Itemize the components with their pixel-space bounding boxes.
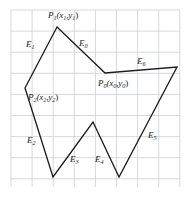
subscript: 3 [75, 158, 78, 165]
edge-label-e6: E6 [137, 57, 145, 66]
subscript: 0 [103, 82, 106, 89]
subscript: 1 [31, 43, 34, 50]
edge-label-e2: E2 [27, 136, 35, 145]
subscript: 4 [100, 158, 103, 165]
subscript: 2 [33, 96, 36, 103]
subscript: 0 [122, 82, 125, 89]
subscript: 2 [52, 96, 55, 103]
subscript: 1 [53, 14, 56, 21]
subscript: 5 [153, 134, 156, 141]
subscript: 0 [84, 42, 87, 49]
polygon-figure: E0E1E2E3E4E5E6P1(x1,y1)P0(x0,y0)P2(x2,y2… [0, 0, 195, 200]
subscript: 1 [63, 14, 66, 21]
edge-label-e5: E5 [148, 131, 156, 140]
edge-label-e4: E4 [95, 155, 103, 164]
subscript: 6 [142, 60, 145, 67]
edge-label-e3: E3 [70, 155, 78, 164]
edge-label-e0: E0 [79, 39, 87, 48]
vertex-label-p2: P2(x2,y2) [28, 93, 58, 102]
subscript: 2 [32, 139, 35, 146]
vertex-label-p0: P0(x0,y0) [98, 79, 128, 88]
edge-label-e1: E1 [26, 40, 34, 49]
subscript: 0 [113, 82, 116, 89]
vertex-label-p1: P1(x1,y1) [48, 11, 78, 20]
subscript: 1 [72, 14, 75, 21]
subscript: 2 [43, 96, 46, 103]
